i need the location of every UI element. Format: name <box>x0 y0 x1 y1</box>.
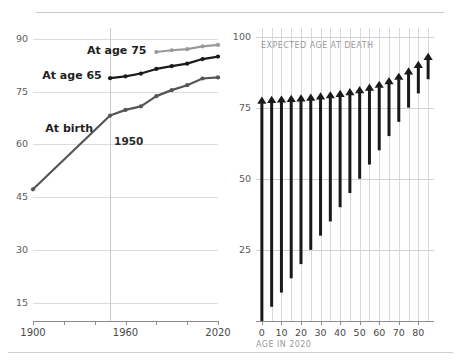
series-point <box>200 44 204 48</box>
arrow-mark <box>287 95 296 278</box>
arrow-mark <box>257 97 266 321</box>
arrow-mark <box>404 67 413 107</box>
x-tick-label: 60 <box>373 328 385 338</box>
x-tick-label: 50 <box>354 328 366 338</box>
arrow-mark <box>316 92 325 235</box>
series-point <box>108 76 112 80</box>
x-tick <box>187 321 188 325</box>
x-tick-label: 10 <box>275 328 287 338</box>
series-label-at-age-65: At age 65 <box>42 70 102 81</box>
arrow-head <box>424 53 433 60</box>
x-tick-label: 30 <box>315 328 327 338</box>
series-point <box>154 50 158 54</box>
y-tick-label: 45 <box>16 193 28 203</box>
series-point <box>185 62 189 66</box>
plot-area-right: 255075100 01020304050607080 EXPECTED AGE… <box>256 28 434 321</box>
arrow-mark <box>384 77 393 136</box>
arrow-marks-right <box>256 28 434 321</box>
arrow-head <box>404 67 413 74</box>
arrow-mark <box>424 53 433 79</box>
x-tick <box>360 321 361 325</box>
arrow-head <box>277 95 286 102</box>
x-tick-label: 1900 <box>20 328 45 338</box>
x-axis-right <box>256 321 434 322</box>
series-point <box>170 88 174 92</box>
series-point <box>123 74 127 78</box>
arrow-head <box>365 83 374 90</box>
series-point <box>170 48 174 52</box>
y-tick-label: 90 <box>16 34 28 44</box>
arrow-mark <box>345 88 354 193</box>
series-point <box>123 108 127 112</box>
x-tick-label: 80 <box>412 328 424 338</box>
arrow-head <box>345 88 354 95</box>
y-axis-caption-right: EXPECTED AGE AT DEATH <box>261 42 373 50</box>
arrow-head <box>414 61 423 68</box>
series-point <box>185 47 189 51</box>
series-label-at-age-75: At age 75 <box>87 45 147 56</box>
x-tick-label: 1960 <box>113 328 138 338</box>
x-tick <box>321 321 322 325</box>
series-point <box>216 43 220 47</box>
x-tick-label: 0 <box>259 328 265 338</box>
y-tick-label: 75 <box>239 103 251 113</box>
x-tick <box>95 321 96 325</box>
y-tick-label: 75 <box>16 87 28 97</box>
x-tick <box>218 321 219 325</box>
series-point <box>108 113 112 117</box>
expected-age-at-death-chart: 255075100 01020304050607080 EXPECTED AGE… <box>232 0 459 364</box>
series-point <box>170 64 174 68</box>
y-tick-label: 25 <box>239 245 251 255</box>
x-tick <box>281 321 282 325</box>
arrow-head <box>355 86 364 93</box>
y-tick-label: 60 <box>16 140 28 150</box>
arrow-mark <box>306 93 315 249</box>
arrow-mark <box>336 90 345 207</box>
x-tick <box>262 321 263 325</box>
arrow-mark <box>267 96 276 307</box>
x-tick-label: 40 <box>334 328 346 338</box>
x-tick <box>418 321 419 325</box>
arrow-head <box>326 91 335 98</box>
arrow-head <box>375 81 384 88</box>
series-point <box>154 67 158 71</box>
arrow-mark <box>326 91 335 221</box>
x-tick <box>340 321 341 325</box>
arrow-mark <box>394 73 403 122</box>
y-tick-label: 50 <box>239 174 251 184</box>
arrow-head <box>296 94 305 101</box>
arrow-head <box>394 73 403 80</box>
year-label-1950: 1950 <box>114 136 143 147</box>
arrow-head <box>257 97 266 104</box>
series-point <box>139 104 143 108</box>
series-point <box>216 54 220 58</box>
x-tick-label: 2020 <box>205 328 230 338</box>
x-tick <box>33 321 34 325</box>
y-tick-label: 100 <box>233 32 251 42</box>
x-tick <box>301 321 302 325</box>
series-point <box>200 57 204 61</box>
x-tick-label: 70 <box>393 328 405 338</box>
x-axis-caption-right: AGE IN 2020 <box>256 341 311 349</box>
y-tick-label: 30 <box>16 246 28 256</box>
series-point <box>185 83 189 87</box>
arrow-mark <box>296 94 305 264</box>
series-point <box>154 94 158 98</box>
x-tick <box>156 321 157 325</box>
arrow-mark <box>355 86 364 179</box>
arrow-mark <box>414 61 423 94</box>
plot-area-left: 153045607590 190019602020 At birthAt age… <box>33 28 218 321</box>
series-point <box>31 187 35 191</box>
arrow-head <box>384 77 393 84</box>
arrow-mark <box>375 81 384 151</box>
arrow-mark <box>365 83 374 164</box>
series-point <box>200 76 204 80</box>
life-expectancy-trend-chart: 153045607590 190019602020 At birthAt age… <box>0 0 232 364</box>
arrow-mark <box>277 95 286 292</box>
arrow-head <box>336 90 345 97</box>
arrow-head <box>316 92 325 99</box>
x-tick <box>126 321 127 325</box>
arrow-head <box>287 95 296 102</box>
series-label-at-birth: At birth <box>45 123 93 134</box>
series-point <box>216 75 220 79</box>
